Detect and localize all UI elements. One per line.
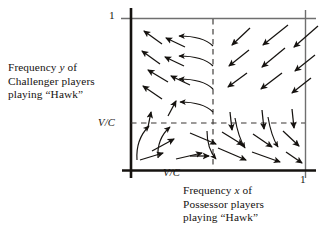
x-axis-caption-line1: Frequency x of [183,184,264,198]
streamline-group-left [179,36,213,112]
y-axis-caption-line2: Challenger players [8,75,95,89]
x-axis-ratio-tick-label: V/C [163,167,180,179]
vector-group-lower-left [140,139,202,160]
y-caption-post: of [65,61,78,73]
y-axis-caption-line1: Frequency y of [8,61,95,75]
vector-group-upper-right [228,25,318,93]
x-axis-caption-line2: Possessor players [183,198,264,212]
phase-plane-svg [0,0,326,237]
y-caption-pre: Frequency [8,61,60,73]
vector-group-center-down [230,109,294,130]
y-axis-ratio-tick-label: V/C [98,117,115,129]
y-axis-max-tick-label: 1 [109,9,115,21]
x-caption-pre: Frequency [183,184,235,196]
streamline-group-saddle-left [137,126,170,160]
x-caption-post: of [240,184,253,196]
x-axis-max-tick-label: 1 [300,173,306,185]
x-axis-caption: Frequency x of Possessor players playing… [183,184,264,225]
phase-plane-figure: Frequency y of Challenger players playin… [0,0,326,237]
x-axis-caption-line3: playing “Hawk” [183,211,264,225]
y-axis-caption: Frequency y of Challenger players playin… [8,61,95,102]
y-axis-caption-line3: playing “Hawk” [8,88,95,102]
